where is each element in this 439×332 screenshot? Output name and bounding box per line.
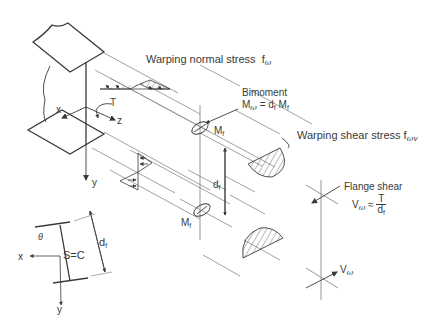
df-main-label: df: [213, 180, 221, 191]
bimoment-label: Bimoment Mω = df Mf: [242, 88, 289, 112]
v-omega-label: Vω: [340, 265, 353, 277]
axis-z-label: z: [117, 116, 122, 126]
flange-shear-label: Flange shear Vω ≈ Tdf: [344, 182, 402, 216]
axis-x-label: x: [56, 105, 61, 115]
section-y-label: y: [57, 305, 62, 315]
axis-y-label: y: [92, 178, 97, 188]
torque-label: T: [110, 98, 116, 108]
warping-normal-stress-label: Warping normal stress fω: [146, 54, 271, 67]
section-df-label: df: [99, 237, 107, 249]
section-theta-label: θ: [38, 233, 43, 242]
shear-stress-bottom: [243, 228, 283, 258]
mf-bottom-label: Mf: [181, 218, 191, 229]
shear-stress-top: [248, 138, 289, 177]
warping-shear-stress-label: Warping shear stress fωv: [297, 130, 418, 143]
i-beam: [28, 23, 104, 154]
normal-stress-top: [100, 80, 170, 89]
warping-torsion-diagram: [0, 0, 439, 332]
flange-shear: [306, 180, 340, 300]
mf-top-label: Mf: [214, 126, 224, 137]
section-x-label: x: [18, 252, 23, 262]
shear-center-label: S=C: [63, 250, 85, 261]
